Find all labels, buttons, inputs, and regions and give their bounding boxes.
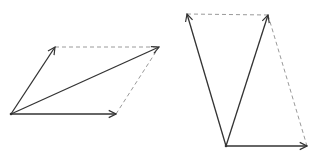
vector-d-arrow (226, 15, 268, 146)
guide-right-dashed-line (268, 15, 307, 146)
parallelogram-vector-addition (10, 47, 159, 115)
origin-point (225, 145, 228, 148)
vector-c-arrow (187, 14, 226, 146)
origin-point (10, 113, 13, 116)
parallelogram-vector-difference (187, 14, 307, 147)
vector-diagram-canvas (0, 0, 319, 152)
guide-top-dashed-line (187, 14, 268, 15)
